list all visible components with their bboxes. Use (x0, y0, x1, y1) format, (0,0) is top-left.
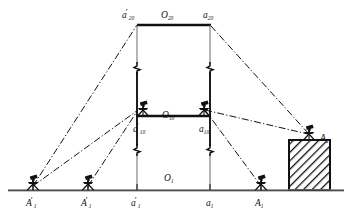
sightline-farleft-to-mid-left (33, 110, 138, 186)
ground-tick-marks (33, 184, 261, 190)
label-ground-A1-far-left: A′1 (26, 193, 36, 209)
sightline-farleft-to-top-left (33, 25, 137, 186)
label-ground-A1-right: A1 (255, 193, 264, 209)
hatched-pier (289, 140, 330, 190)
label-ground-a1-left: a′1 (131, 193, 140, 209)
break-mark-right-upper (207, 62, 213, 74)
break-mark-right-lower (207, 144, 213, 156)
sightline-left-to-mid-left (88, 110, 138, 186)
label-top-right-station: a20 (203, 5, 213, 21)
label-ground-a1-right: a1 (206, 193, 213, 209)
theodolite-ground-far-left (26, 175, 39, 191)
theodolite-ground-right (254, 175, 267, 191)
diagram-svg (0, 0, 352, 214)
sightline-top-right-to-pier (211, 26, 308, 133)
label-mid-right-station: a10 (199, 119, 209, 135)
label-top-level-O20: O20 (161, 5, 173, 21)
figure-canvas: a′20 O20 a20 O10 a′10 a10 A2 O1 a′1 a1 A… (0, 0, 352, 214)
theodolite-mid-right (197, 101, 210, 117)
break-mark-left-lower (134, 144, 140, 156)
label-middle-level-O10: O10 (162, 105, 174, 121)
break-mark-left-upper (134, 62, 140, 74)
label-ground-level-O1: O1 (164, 168, 174, 184)
label-top-left-station: a′20 (122, 5, 134, 21)
theodolite-pier-top (302, 125, 315, 141)
theodolite-ground-left (81, 175, 94, 191)
label-pier-station-A2: A2 (320, 128, 329, 144)
theodolite-mid-left (136, 101, 149, 117)
label-mid-left-station: a′10 (133, 119, 145, 135)
sightline-mid-right-to-ground (205, 110, 261, 186)
label-ground-A1-left: A′1 (81, 193, 91, 209)
